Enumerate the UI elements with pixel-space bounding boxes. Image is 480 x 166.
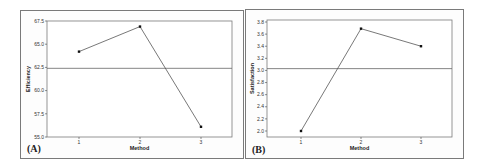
y-tick-label: 2.0 xyxy=(257,128,264,134)
data-point-marker xyxy=(300,130,302,132)
x-axis-title-b: Method xyxy=(350,145,370,151)
y-axis-title-a: Efficiency xyxy=(25,65,31,92)
y-axis-title-b: Satisfaction xyxy=(249,62,255,94)
y-tick-label: 3.6 xyxy=(257,31,264,37)
y-tick-label: 65.0 xyxy=(34,41,44,47)
y-tick-label: 67.5 xyxy=(34,18,44,24)
y-tick-label: 3.2 xyxy=(257,55,264,61)
panel-label-a: (A) xyxy=(27,143,41,155)
y-tick-label: 60.0 xyxy=(34,87,44,93)
data-point-marker xyxy=(78,50,80,52)
plot-area-a xyxy=(47,21,232,137)
y-tick-label: 2.6 xyxy=(257,91,264,97)
y-tick-label: 2.4 xyxy=(257,103,264,109)
y-tick-label: 3.4 xyxy=(257,43,264,49)
y-tick-label: 2.2 xyxy=(257,116,264,122)
y-tick-label: 55.0 xyxy=(34,134,44,140)
panel-label-b: (B) xyxy=(252,144,265,156)
y-tick-label: 3.8 xyxy=(257,19,264,25)
x-tick-label: 1 xyxy=(78,139,81,145)
x-tick-label: 3 xyxy=(420,139,423,145)
data-point-marker xyxy=(360,27,362,29)
y-tick-label: 62.5 xyxy=(34,64,44,70)
data-point-marker xyxy=(139,25,141,27)
data-point-marker xyxy=(200,126,202,128)
x-tick-label: 1 xyxy=(300,139,303,145)
data-point-marker xyxy=(420,45,422,47)
plot-area-b xyxy=(267,20,452,137)
y-tick-label: 57.5 xyxy=(34,111,44,117)
x-axis-title-a: Method xyxy=(130,145,150,151)
x-tick-label: 3 xyxy=(200,139,203,145)
y-tick-label: 3.0 xyxy=(257,67,264,73)
main-effects-charts: 55.057.560.062.565.067.5123MethodEfficie… xyxy=(0,0,480,166)
y-tick-label: 2.8 xyxy=(257,79,264,85)
